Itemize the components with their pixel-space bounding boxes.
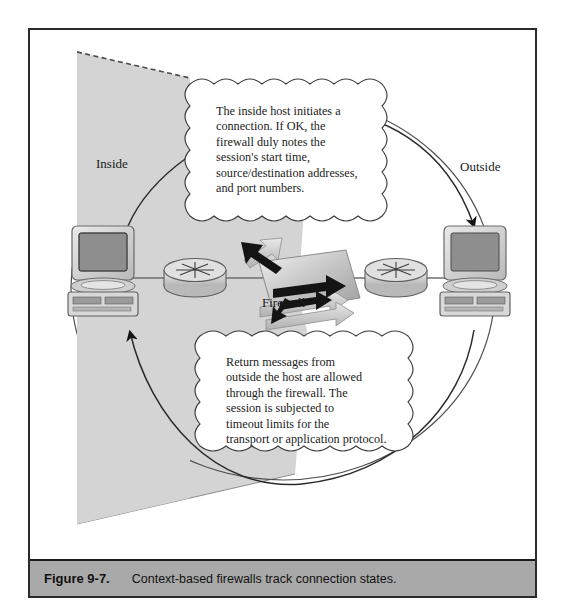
inbound-callout-text: Return messages from outside the host ar… [226, 355, 396, 447]
callout-line: The inside host initiates a [216, 104, 376, 119]
callout-line: outside the host are allowed [226, 370, 396, 385]
callout-line: transport or application protocol. [226, 432, 396, 447]
callout-line: timeout limits for the [226, 417, 396, 432]
inbound-callout: Return messages from outside the host ar… [200, 330, 408, 460]
callout-line: source/destination addresses, [216, 166, 376, 181]
outbound-callout: The inside host initiates a connection. … [190, 78, 390, 210]
outside-router [365, 259, 427, 298]
figure-caption-bar: Figure 9-7. Context-based firewalls trac… [30, 559, 535, 596]
callout-line: session's start time, [216, 150, 376, 165]
outside-host [440, 226, 510, 316]
callout-line: and port numbers. [216, 181, 376, 196]
figure-frame: Inside Outside Firewall The inside host … [28, 28, 537, 598]
outbound-callout-text: The inside host initiates a connection. … [216, 104, 376, 196]
callout-line: through the firewall. The [226, 386, 396, 401]
inside-zone-label: Inside [96, 156, 128, 172]
callout-line: firewall duly notes the [216, 135, 376, 150]
firewall-label: Firewall [262, 295, 305, 311]
callout-line: Return messages from [226, 355, 396, 370]
callout-line: session is subjected to [226, 401, 396, 416]
figure-number: Figure 9-7. [44, 571, 110, 586]
callout-line: connection. If OK, the [216, 119, 376, 134]
inside-router [164, 259, 226, 298]
figure-caption-text: Context-based firewalls track connection… [132, 572, 397, 586]
inside-host [68, 226, 138, 316]
outside-zone-label: Outside [460, 159, 500, 175]
